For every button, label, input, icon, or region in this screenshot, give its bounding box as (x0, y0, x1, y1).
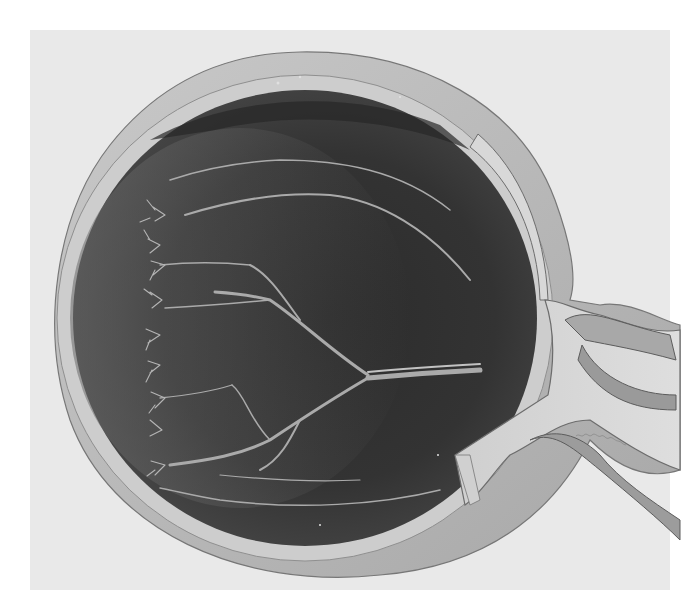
eye-diagram-svg (0, 0, 689, 610)
canvas (0, 0, 689, 610)
